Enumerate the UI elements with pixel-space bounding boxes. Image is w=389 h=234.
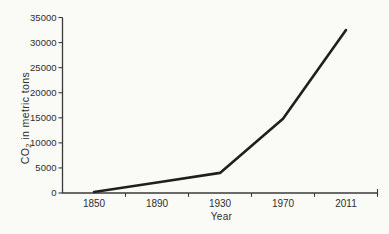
x-tick-label: 1970 xyxy=(272,198,295,209)
x-tick-label: 1850 xyxy=(83,198,106,209)
x-tick-label: 1930 xyxy=(209,198,232,209)
y-tick-label: 5000 xyxy=(35,162,56,173)
co2-line-chart: 0500010000150002000025000300003500018501… xyxy=(0,0,389,234)
y-tick-label: 15000 xyxy=(30,112,56,123)
y-tick-label: 20000 xyxy=(30,87,56,98)
co2-series-line xyxy=(94,30,346,192)
x-axis-title: Year xyxy=(211,211,233,222)
x-tick-label: 1890 xyxy=(146,198,169,209)
y-tick-label: 0 xyxy=(51,187,56,198)
y-tick-label: 35000 xyxy=(30,12,56,23)
y-tick-label: 30000 xyxy=(30,37,56,48)
y-tick-label: 10000 xyxy=(30,137,56,148)
scanned-chart-page: 0500010000150002000025000300003500018501… xyxy=(0,0,389,234)
x-tick-label: 2011 xyxy=(335,198,357,209)
y-tick-label: 25000 xyxy=(30,62,56,73)
